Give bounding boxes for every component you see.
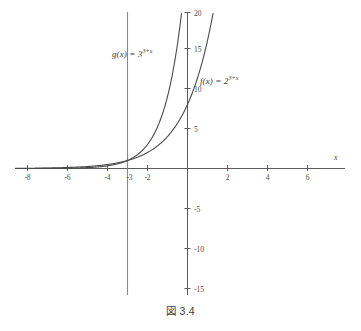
x-tick-label-2: 2 (226, 173, 230, 182)
plot-area: -8 -6 -4 -3 -2 2 4 6 20 15 10 5 -5 -10 -… (0, 0, 361, 300)
y-tick-label-minus-5: -5 (194, 205, 200, 214)
x-tick-label-6: 6 (306, 173, 310, 182)
curve-f-of-x (16, 13, 214, 168)
y-tick-label-15: 15 (194, 45, 202, 54)
x-tick-label-4: 4 (266, 173, 270, 182)
x-tick-label-minus-2: -2 (144, 173, 150, 182)
function-label-f-base: f(x) = 2 (200, 76, 228, 86)
x-tick-label-minus-4: -4 (104, 173, 110, 182)
y-tick-label-minus-15: -15 (194, 285, 204, 294)
function-label-g-base: g(x) = 3 (112, 49, 142, 59)
x-tick-label-minus-6: -6 (64, 173, 70, 182)
x-tick-label-minus-8: -8 (24, 173, 30, 182)
figure-caption: 図 3.4 (0, 303, 361, 318)
y-tick-label-5: 5 (194, 125, 198, 134)
function-label-f-exponent: 3+x (228, 74, 238, 81)
function-label-g: g(x) = 33+x (112, 49, 153, 59)
y-tick-label-minus-10: -10 (194, 245, 204, 254)
curve-g-of-x (16, 13, 182, 168)
function-label-g-exponent: 3+x (142, 47, 152, 54)
graph-canvas: -8 -6 -4 -3 -2 2 4 6 20 15 10 5 -5 -10 -… (0, 0, 361, 300)
x-axis-name: x (333, 153, 338, 162)
y-tick-label-20: 20 (194, 9, 202, 18)
x-tick-label-minus-3: -3 (126, 173, 132, 182)
function-label-f: f(x) = 23+x (200, 76, 239, 86)
figure-container: -8 -6 -4 -3 -2 2 4 6 20 15 10 5 -5 -10 -… (0, 0, 361, 331)
